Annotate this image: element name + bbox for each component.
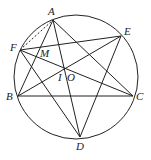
segment-eb: [18, 36, 121, 96]
circle-star-diagram: A E F B C D M I O: [0, 0, 151, 160]
label-m: M: [39, 47, 50, 59]
label-o: O: [67, 71, 75, 83]
label-i: I: [57, 71, 63, 83]
segments: [18, 20, 133, 137]
segment-fa: [20, 20, 53, 50]
label-b: B: [6, 90, 13, 102]
segment-fe: [20, 36, 121, 50]
segment-fc: [20, 50, 133, 96]
segment-ac: [53, 20, 133, 96]
segment-fd: [20, 50, 80, 137]
label-d: D: [75, 140, 84, 152]
label-c: C: [136, 90, 144, 102]
geometry-figure: A E F B C D M I O: [0, 0, 151, 160]
label-f: F: [9, 41, 17, 53]
label-e: E: [123, 25, 131, 37]
label-a: A: [47, 5, 55, 17]
